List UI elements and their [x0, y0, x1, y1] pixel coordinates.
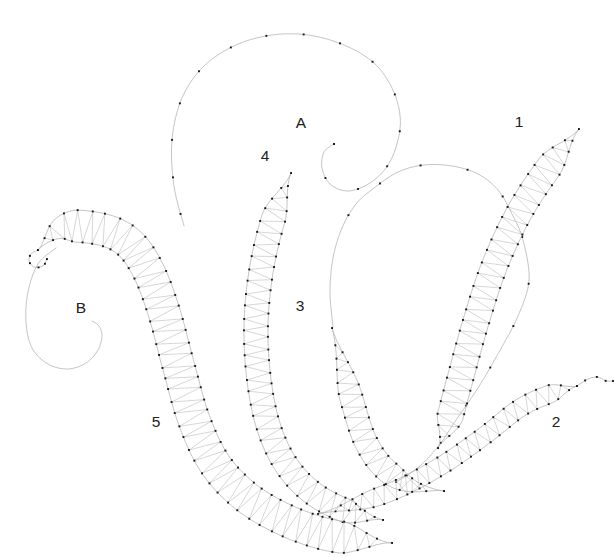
- pin-dot: [267, 349, 269, 351]
- pin-dot: [490, 441, 492, 443]
- label-1: 1: [515, 113, 524, 130]
- pin-dot: [337, 382, 339, 384]
- pin-dot: [473, 285, 475, 287]
- pin-dot: [527, 413, 529, 415]
- pin-dot: [551, 184, 553, 186]
- pin-dot: [164, 377, 166, 379]
- pin-dot: [342, 351, 344, 353]
- pin-dot: [347, 361, 349, 363]
- pin-dot: [534, 164, 536, 166]
- pin-dot: [149, 321, 151, 323]
- pin-dot: [201, 472, 203, 474]
- pin-dot: [287, 185, 289, 187]
- pin-dot: [286, 210, 288, 212]
- pin-dot: [63, 212, 65, 214]
- leaf-4-pin-dots: [243, 172, 384, 524]
- pin-dot: [259, 220, 261, 222]
- leaf-4: [243, 172, 384, 524]
- pin-dot: [353, 525, 355, 527]
- pin-dot: [273, 266, 275, 268]
- pin-dot: [29, 255, 31, 257]
- pin-dot: [474, 431, 476, 433]
- pin-dot: [396, 498, 398, 500]
- pin-dot: [368, 417, 370, 419]
- pin-dot: [252, 415, 254, 417]
- pin-dot: [372, 428, 374, 430]
- pin-dot: [405, 475, 407, 477]
- pin-dot: [420, 483, 422, 485]
- pin-dot: [329, 516, 331, 518]
- pin-dot: [191, 352, 193, 354]
- pin-dot: [243, 329, 245, 331]
- pin-dot: [399, 130, 401, 132]
- pin-dot: [542, 154, 544, 156]
- scroll-curve-b-line: [26, 248, 102, 369]
- pin-dot: [46, 258, 48, 260]
- pin-dot: [339, 42, 341, 44]
- pin-dot: [359, 509, 361, 511]
- pin-dot: [268, 313, 270, 315]
- pin-dot: [171, 139, 173, 141]
- pin-dot: [528, 283, 530, 285]
- pin-dot: [352, 498, 354, 500]
- pin-dot: [469, 390, 471, 392]
- pin-dot: [200, 386, 202, 388]
- pin-dot: [44, 263, 46, 265]
- leaf-3-pin-dots: [331, 327, 445, 493]
- pin-dot: [286, 485, 288, 487]
- pin-dot: [282, 535, 284, 537]
- pin-dot: [317, 513, 319, 515]
- pin-dot: [532, 213, 534, 215]
- pin-dot: [244, 354, 246, 356]
- pin-dot: [578, 128, 580, 130]
- pin-dot: [244, 304, 246, 306]
- pin-dot: [455, 343, 457, 345]
- pin-dot: [373, 488, 375, 490]
- pin-dot: [167, 388, 169, 390]
- pin-dot: [446, 377, 448, 379]
- pin-dot: [375, 476, 377, 478]
- pin-dot: [428, 482, 430, 484]
- pin-dot: [612, 380, 614, 382]
- pin-dot: [250, 404, 252, 406]
- pin-dot: [383, 484, 385, 486]
- pin-dot: [352, 441, 354, 443]
- label-2: 2: [552, 413, 561, 430]
- pin-dot: [557, 398, 559, 400]
- pin-dot: [488, 322, 490, 324]
- pin-dot: [402, 469, 404, 471]
- pin-dot: [49, 225, 51, 227]
- leaf-5-inner-edge: [38, 210, 392, 543]
- pin-dot: [359, 454, 361, 456]
- pin-dot: [486, 249, 488, 251]
- pin-dot: [596, 376, 598, 378]
- pin-dot: [134, 278, 136, 280]
- pin-dot: [275, 405, 277, 407]
- pin-dot: [296, 495, 298, 497]
- pin-dot: [248, 390, 250, 392]
- pin-dot: [197, 376, 199, 378]
- pin-dot: [481, 262, 483, 264]
- pin-dot: [267, 336, 269, 338]
- pin-dot: [503, 277, 505, 279]
- leaf-3-inner-edge: [332, 328, 444, 491]
- pin-dot: [440, 475, 442, 477]
- pin-dot: [290, 172, 292, 174]
- pin-dot: [165, 270, 167, 272]
- pin-dot: [491, 239, 493, 241]
- pin-dot: [355, 503, 357, 505]
- pin-dot: [82, 242, 84, 244]
- leaf-1: [437, 128, 580, 449]
- pin-dot: [92, 211, 94, 213]
- pin-dot: [248, 518, 250, 520]
- pin-dot: [469, 296, 471, 298]
- pin-dot: [278, 243, 280, 245]
- pin-dot: [437, 447, 439, 449]
- pin-dot: [119, 218, 121, 220]
- pin-dot: [361, 493, 363, 495]
- pin-dot: [259, 524, 261, 526]
- pin-dot: [325, 177, 327, 179]
- pin-dot: [138, 287, 140, 289]
- label-5: 5: [152, 413, 161, 430]
- pin-dot: [260, 440, 262, 442]
